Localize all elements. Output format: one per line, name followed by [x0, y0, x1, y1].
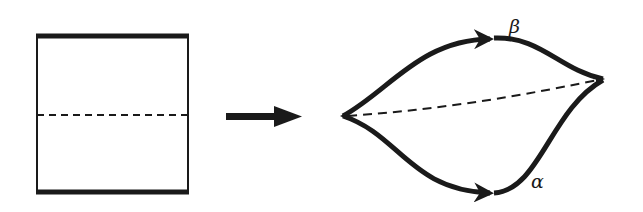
diagram-canvas: β α	[0, 0, 643, 212]
map-arrow	[226, 106, 302, 127]
arrow-head-icon	[274, 106, 302, 127]
arrow-shaft	[226, 113, 278, 120]
top-arc-beta-first-half	[343, 39, 490, 116]
label-alpha: α	[531, 170, 544, 192]
lens	[340, 38, 605, 193]
square	[36, 36, 189, 192]
label-beta: β	[508, 15, 520, 37]
bottom-arc-alpha-second-half	[494, 80, 603, 193]
bottom-arc-alpha-first-half	[343, 116, 490, 193]
top-arc-beta-second-half	[494, 38, 603, 79]
